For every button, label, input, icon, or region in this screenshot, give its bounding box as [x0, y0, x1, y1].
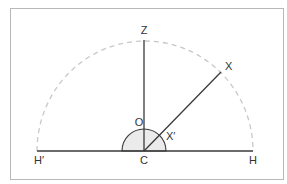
label-observer: O [135, 116, 144, 128]
label-zenith: Z [141, 24, 148, 36]
label-star: X [225, 60, 233, 72]
label-horizon-west: H′ [34, 154, 44, 166]
label-center: C [140, 154, 148, 166]
celestial-sphere-diagram: Z X O X′ C H H′ [0, 0, 287, 184]
label-star-projection: X′ [166, 130, 175, 142]
label-horizon-east: H [249, 154, 257, 166]
